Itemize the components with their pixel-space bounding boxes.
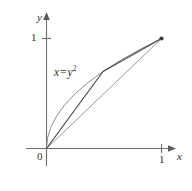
x-axis-arrowhead — [168, 145, 176, 152]
x-tick-label-one: 1 — [159, 154, 165, 165]
equation-exponent: 2 — [73, 64, 77, 73]
origin-label: 0 — [37, 151, 43, 162]
y-tick-label-one: 1 — [31, 32, 37, 43]
y-axis-arrowhead — [43, 12, 50, 20]
y-axis-label: y — [37, 12, 42, 23]
curve-equation-label: x=y2 — [54, 67, 76, 79]
endpoint-dot — [159, 36, 163, 40]
x-axis-label: x — [177, 151, 182, 162]
figure-canvas: y x 1 0 1 x=y2 — [0, 0, 192, 191]
equation-equals: = — [59, 66, 68, 78]
chord-origin-to-endpoint — [47, 39, 162, 149]
